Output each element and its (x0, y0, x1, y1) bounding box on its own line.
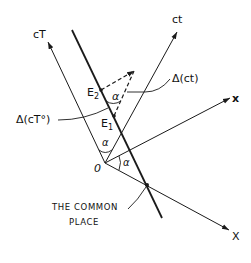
cT-axis (48, 42, 105, 163)
common-place-leader (128, 187, 146, 209)
delta-ct-label: Δ(ct) (172, 72, 198, 85)
event-E2-dot (99, 88, 103, 92)
dashed-E2-to-tip (101, 71, 134, 90)
angle-arc-space-axes (119, 156, 121, 170)
event-E2-label: E2 (87, 86, 99, 101)
x-prime-axis-label: x (232, 92, 239, 105)
delta-ct-leader (127, 79, 170, 92)
ct-axis-label: ct (172, 13, 183, 26)
x-prime-axis (105, 98, 230, 163)
angle-arc-time-axes (99, 150, 112, 153)
common-place-label-line2: PLACE (69, 217, 99, 227)
common-place-worldline (72, 30, 162, 218)
X-axis-label: X (232, 230, 240, 243)
event-E1-dot (112, 114, 116, 118)
spacetime-diagram: cT ct x X E2 E1 α α α 0 Δ(cT°) Δ(ct) THE… (0, 0, 251, 263)
X-axis (105, 163, 229, 230)
event-E1-label: E1 (101, 117, 113, 132)
common-place-point (145, 183, 149, 187)
origin-label: 0 (94, 162, 101, 175)
alpha-label-space-axes: α (123, 157, 130, 168)
cT-axis-label: cT (33, 28, 46, 41)
alpha-label-triangle: α (112, 90, 120, 103)
common-place-label-line1: THE COMMON (51, 202, 118, 212)
delta-cT0-label: Δ(cT°) (16, 113, 50, 126)
alpha-label-time-axes: α (102, 137, 109, 148)
